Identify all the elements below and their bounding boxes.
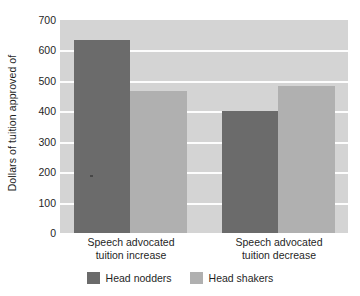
y-axis-tick-label: 400 [10,105,56,117]
plot-area [60,20,348,233]
bar-head-shakers [130,91,186,233]
y-axis-tick-label: 700 [10,14,56,26]
bar-group [222,20,335,233]
x-axis-tick-label-line: Speech advocated [194,236,360,249]
x-axis-tick-label: Speech advocatedtuition increase [46,236,216,262]
legend-swatch-icon [190,272,203,284]
legend-item: Head shakers [190,272,274,284]
y-axis-tick-labels: 0100200300400500600700 [4,20,56,233]
bar-series-container [60,20,348,233]
bar-chart-figure: Dollars of tuition approved of 010020030… [0,0,360,296]
x-axis-tick-labels: Speech advocatedtuition increaseSpeech a… [60,236,348,268]
y-axis-tick-label: 100 [10,197,56,209]
legend-label: Head shakers [209,272,274,284]
bar-head-nodders [74,40,130,233]
bar-head-shakers [278,86,334,233]
x-axis-tick-label-line: tuition decrease [194,249,360,262]
bar-head-nodders [222,111,278,233]
y-axis-tick-label: 200 [10,166,56,178]
legend-item: Head nodders [87,272,172,284]
y-axis-tick-label: 500 [10,75,56,87]
chart-legend: Head noddersHead shakers [0,272,360,284]
x-axis-tick-label: Speech advocatedtuition decrease [194,236,360,262]
y-axis-tick-label: 300 [10,136,56,148]
x-axis-tick-label-line: tuition increase [46,249,216,262]
y-axis-tick-label: 600 [10,44,56,56]
legend-label: Head nodders [106,272,172,284]
scan-artifact-speck [90,175,93,177]
bar-group [74,20,187,233]
x-axis-tick-label-line: Speech advocated [46,236,216,249]
legend-swatch-icon [87,272,100,284]
